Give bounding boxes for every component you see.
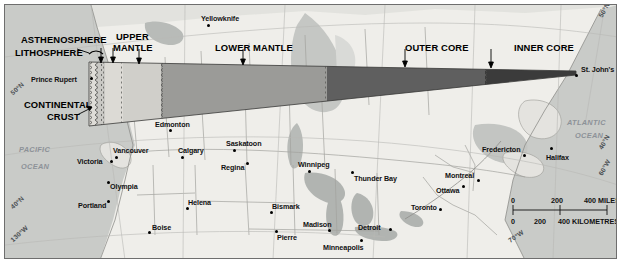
city-dot-regina xyxy=(246,162,249,165)
city-dot-prince-rupert xyxy=(90,77,93,80)
city-label-detroit: Detroit xyxy=(358,223,380,232)
ocean-label-atlantic-line2: OCEAN xyxy=(575,131,603,140)
city-dot-calgary xyxy=(181,156,184,159)
city-dot-winnipeg xyxy=(308,170,311,173)
city-label-st-johns: St. John's xyxy=(581,65,614,74)
ocean-label-pacific-line2: OCEAN xyxy=(21,162,49,171)
city-dot-minneapolis xyxy=(360,239,363,242)
ocean-label-pacific: PACIFIC xyxy=(19,145,50,154)
city-label-saskatoon: Saskatoon xyxy=(226,139,261,148)
city-dot-vancouver xyxy=(115,156,118,159)
scale-miles-400: 400 MILES xyxy=(584,196,617,205)
scale-miles-200: 200 xyxy=(551,196,563,205)
city-dot-fredericton xyxy=(523,154,526,157)
city-dot-madison xyxy=(328,229,331,232)
city-label-halifax: Halifax xyxy=(546,153,569,162)
scale-miles-0: 0 xyxy=(511,196,515,205)
city-label-edmonton: Edmonton xyxy=(155,120,190,129)
annotation-inner-core: INNER CORE xyxy=(514,42,574,53)
map-frame: ASTHENOSPHERE LITHOSPHERE UPPER MANTLE L… xyxy=(4,4,617,259)
city-dot-helena xyxy=(186,207,189,210)
city-dot-halifax xyxy=(550,147,553,150)
city-dot-portland xyxy=(107,200,110,203)
city-dot-bismark xyxy=(270,211,273,214)
city-label-montreal: Montreal xyxy=(445,171,474,180)
city-label-ottawa: Ottawa xyxy=(436,186,459,195)
city-label-thunder-bay: Thunder Bay xyxy=(354,174,397,183)
annotation-continental-crust-line1: CONTINENTAL xyxy=(24,99,92,110)
city-label-victoria: Victoria xyxy=(77,157,102,166)
city-dot-olympia xyxy=(107,181,110,184)
city-dot-edmonton xyxy=(169,129,172,132)
city-dot-thunder-bay xyxy=(351,171,354,174)
city-dot-pierre xyxy=(275,230,278,233)
ocean-label-atlantic: ATLANTIC xyxy=(567,118,606,127)
city-label-bismark: Bismark xyxy=(272,202,300,211)
city-dot-saskatoon xyxy=(233,149,236,152)
scale-km-200: 200 xyxy=(534,217,546,226)
city-label-yellowknife: Yellowknife xyxy=(201,14,239,23)
city-label-calgary: Calgary xyxy=(178,146,204,155)
city-label-helena: Helena xyxy=(188,198,211,207)
city-dot-boise xyxy=(148,231,151,234)
city-label-vancouver: Vancouver xyxy=(113,146,148,155)
annotation-lithosphere: LITHOSPHERE xyxy=(15,47,83,58)
city-dot-ottawa xyxy=(462,185,465,188)
city-label-madison: Madison xyxy=(303,220,331,229)
city-dot-victoria xyxy=(110,160,113,163)
city-label-toronto: Toronto xyxy=(411,203,437,212)
scale-km-0: 0 xyxy=(511,217,515,226)
city-label-portland: Portland xyxy=(78,201,106,210)
city-label-prince-rupert: Prince Rupert xyxy=(31,75,77,84)
scale-km-400: 400 KILOMETRES xyxy=(558,217,617,226)
city-dot-montreal xyxy=(477,179,480,182)
annotation-upper-mantle-line2: MANTLE xyxy=(113,42,153,53)
city-label-regina: Regina xyxy=(221,163,244,172)
city-dot-yellowknife xyxy=(207,24,210,27)
annotation-asthenosphere: ASTHENOSPHERE xyxy=(21,34,107,45)
city-dot-detroit xyxy=(389,228,392,231)
annotation-outer-core: OUTER CORE xyxy=(405,42,469,53)
city-dot-toronto xyxy=(439,208,442,211)
city-label-pierre: Pierre xyxy=(277,233,297,242)
city-label-minneapolis: Minneapolis xyxy=(323,243,363,252)
earth-cross-section-map: ASTHENOSPHERE LITHOSPHERE UPPER MANTLE L… xyxy=(0,0,623,265)
city-label-olympia: Olympia xyxy=(110,182,138,191)
city-label-winnipeg: Winnipeg xyxy=(298,160,329,169)
annotation-continental-crust-line2: CRUST xyxy=(47,111,80,122)
city-label-boise: Boise xyxy=(152,223,171,232)
city-dot-st-johns xyxy=(575,74,578,77)
city-label-fredericton: Fredericton xyxy=(482,145,520,154)
annotation-upper-mantle-line1: UPPER xyxy=(116,31,149,42)
annotation-lower-mantle: LOWER MANTLE xyxy=(215,42,293,53)
